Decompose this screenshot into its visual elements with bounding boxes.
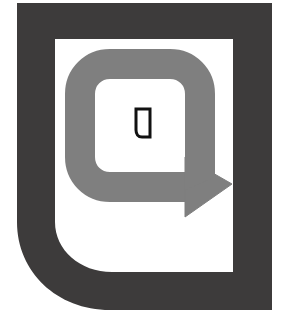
logo-canvas: Dark gray open bracket frame enclosing a… bbox=[0, 0, 291, 327]
center-glyph bbox=[136, 109, 150, 137]
logo-svg bbox=[0, 0, 291, 327]
